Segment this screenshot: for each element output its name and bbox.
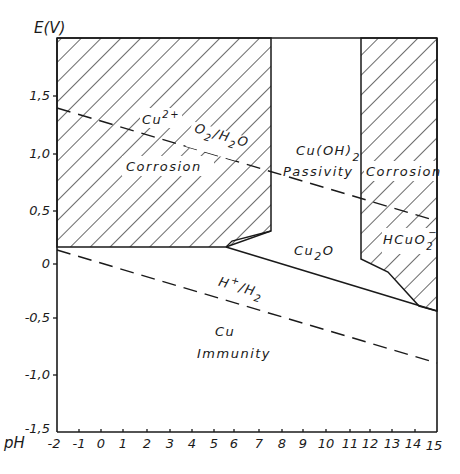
y-tick-labels: 1,5 1,0 0,5 0 -0,5 -1,0 -1,5: [25, 88, 50, 436]
svg-text:1,5: 1,5: [29, 88, 50, 103]
y-axis-label: E(V): [34, 19, 65, 37]
label-cu: Cu: [215, 324, 235, 339]
svg-text:1,0: 1,0: [29, 146, 50, 161]
label-corrosion-right: Corrosion: [366, 164, 442, 179]
svg-text:-1: -1: [73, 436, 86, 451]
x-axis-label: pH: [3, 434, 25, 452]
label-cuoh2: Cu(OH)2: [296, 143, 361, 164]
label-h-h2: H+/H2: [216, 271, 266, 305]
x-tick-labels: -2 -1 0 1 2 3 4 5 6 7 8 9 10 11 12 13 14…: [48, 436, 443, 453]
svg-text:-1,5: -1,5: [25, 421, 50, 436]
svg-text:-1,0: -1,0: [25, 367, 50, 382]
svg-text:0: 0: [42, 256, 50, 271]
svg-text:0: 0: [97, 436, 105, 451]
svg-text:15: 15: [426, 438, 443, 453]
svg-text:-0,5: -0,5: [25, 310, 50, 325]
svg-text:5: 5: [210, 436, 218, 451]
label-passivity: Passivity: [283, 164, 354, 179]
pourbaix-diagram: E(V) pH 1,5 1,0 0,5 0 -0,5 -1,0 -1,5 -2 …: [0, 0, 460, 474]
svg-text:3: 3: [166, 436, 174, 451]
svg-text:7: 7: [255, 436, 264, 451]
svg-text:13: 13: [384, 436, 401, 451]
svg-text:8: 8: [278, 436, 286, 451]
svg-text:1: 1: [119, 436, 127, 451]
svg-text:14: 14: [405, 436, 422, 451]
svg-text:4: 4: [188, 436, 196, 451]
svg-text:2: 2: [143, 436, 151, 451]
label-corrosion-left: Corrosion: [126, 159, 202, 174]
svg-text:11: 11: [342, 436, 359, 451]
label-cu2o: Cu2O: [294, 243, 335, 263]
svg-text:0,5: 0,5: [29, 203, 50, 218]
svg-text:10: 10: [318, 436, 335, 451]
svg-text:6: 6: [230, 436, 238, 451]
label-immunity: Immunity: [197, 346, 271, 361]
svg-text:12: 12: [362, 436, 379, 451]
svg-text:9: 9: [299, 436, 307, 451]
svg-text:-2: -2: [48, 436, 61, 451]
